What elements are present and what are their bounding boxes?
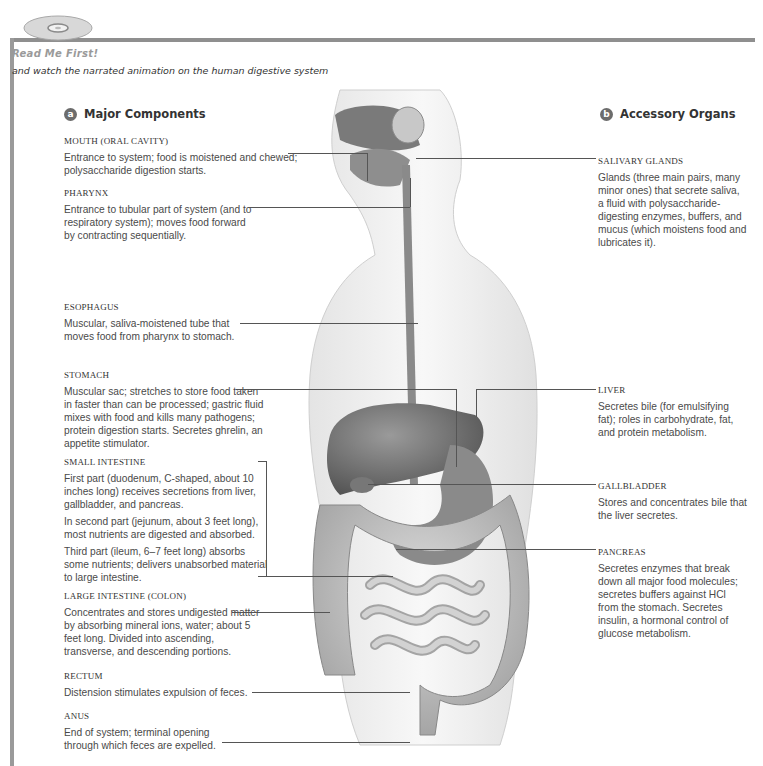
text-esophagus: Muscular, saliva-moistened tube that mov… — [64, 317, 254, 343]
section-b-heading: b Accessory Organs — [600, 107, 736, 121]
section-a-title: Major Components — [84, 107, 206, 121]
label-salivary-glands: SALIVARY GLANDS — [598, 156, 748, 166]
text-anus: End of system; terminal opening through … — [64, 726, 234, 752]
header-rule — [10, 38, 755, 42]
section-b-marker: b — [600, 108, 613, 121]
leader-pancreas — [396, 549, 596, 550]
block-large-intestine: LARGE INTESTINE (COLON) Concentrates and… — [64, 591, 264, 662]
leader-small-intestine — [258, 576, 393, 577]
leader-mouth-v — [367, 153, 368, 181]
leader-anus — [222, 742, 410, 743]
bracket-small-intestine — [266, 461, 267, 576]
leader-rectum — [252, 692, 410, 693]
section-a-marker: a — [64, 108, 77, 121]
text-salivary-glands: Glands (three main pairs, many minor one… — [598, 171, 748, 249]
text-large-intestine: Concentrates and stores undigested matte… — [64, 606, 264, 658]
block-gallbladder: GALLBLADDER Stores and concentrates bile… — [598, 481, 748, 526]
cd-disc-icon — [22, 14, 94, 42]
leader-pharynx — [248, 207, 410, 208]
label-anus: ANUS — [64, 711, 234, 721]
text-gallbladder: Stores and concentrates bile that the li… — [598, 496, 748, 522]
label-liver: LIVER — [598, 385, 748, 395]
block-mouth: MOUTH (ORAL CAVITY) Entrance to system; … — [64, 136, 304, 181]
label-esophagus: ESOPHAGUS — [64, 302, 254, 312]
text-pancreas: Secretes enzymes that break down all maj… — [598, 562, 748, 640]
label-large-intestine: LARGE INTESTINE (COLON) — [64, 591, 264, 601]
label-rectum: RECTUM — [64, 671, 264, 681]
block-liver: LIVER Secretes bile (for emulsifying fat… — [598, 385, 748, 443]
text-mouth: Entrance to system; food is moistened an… — [64, 151, 304, 177]
label-gallbladder: GALLBLADDER — [598, 481, 748, 491]
label-stomach: STOMACH — [64, 370, 264, 380]
text-small-intestine-1: First part (duodenum, C-shaped, about 10… — [64, 472, 269, 511]
subtitle: and watch the narrated animation on the … — [12, 65, 328, 76]
label-pharynx: PHARYNX — [64, 188, 254, 198]
bracket-small-intestine-top — [258, 461, 266, 462]
section-b-title: Accessory Organs — [620, 107, 736, 121]
block-pharynx: PHARYNX Entrance to tubular part of syst… — [64, 188, 254, 246]
label-small-intestine: SMALL INTESTINE — [64, 457, 269, 467]
left-margin-rule — [10, 38, 14, 766]
block-salivary-glands: SALIVARY GLANDS Glands (three main pairs… — [598, 156, 748, 253]
text-liver: Secretes bile (for emulsifying fat); rol… — [598, 400, 748, 439]
label-pancreas: PANCREAS — [598, 547, 748, 557]
leader-pharynx-v — [410, 178, 411, 207]
leader-gallbladder — [368, 484, 596, 485]
text-small-intestine-3: Third part (ileum, 6–7 feet long) absorb… — [64, 545, 269, 584]
leader-mouth — [288, 153, 368, 154]
text-rectum: Distension stimulates expulsion of feces… — [64, 686, 264, 699]
block-stomach: STOMACH Muscular sac; stretches to store… — [64, 370, 264, 454]
text-stomach: Muscular sac; stretches to store food ta… — [64, 385, 264, 450]
block-esophagus: ESOPHAGUS Muscular, saliva-moistened tub… — [64, 302, 254, 347]
label-mouth: MOUTH (ORAL CAVITY) — [64, 136, 304, 146]
leader-liver — [476, 389, 596, 390]
leader-liver-v — [476, 389, 477, 417]
digestive-system-illustration — [300, 85, 540, 755]
leader-large-intestine — [232, 612, 330, 613]
block-anus: ANUS End of system; terminal opening thr… — [64, 711, 234, 756]
leader-salivary — [416, 158, 596, 159]
leader-stomach — [236, 389, 456, 390]
section-a-heading: a Major Components — [64, 107, 206, 121]
read-me-first-label[interactable]: Read Me First! — [12, 48, 98, 59]
leader-esophagus — [240, 323, 418, 324]
block-rectum: RECTUM Distension stimulates expulsion o… — [64, 671, 264, 703]
block-small-intestine: SMALL INTESTINE First part (duodenum, C-… — [64, 457, 269, 588]
block-pancreas: PANCREAS Secretes enzymes that break dow… — [598, 547, 748, 644]
text-small-intestine-2: In second part (jejunum, about 3 feet lo… — [64, 515, 269, 541]
leader-stomach-v — [456, 389, 457, 467]
text-pharynx: Entrance to tubular part of system (and … — [64, 203, 254, 242]
